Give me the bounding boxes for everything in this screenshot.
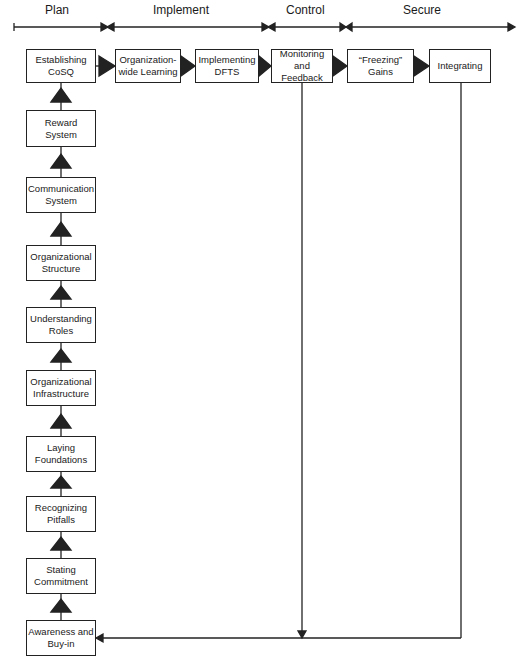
phase-secure: Secure [400,3,444,17]
box-communication-system: Communication System [26,177,96,213]
phase-plan: Plan [42,3,72,17]
box-monitoring-and-feedback: Monitoring and Feedback [271,49,333,83]
box-freezing-gains: “Freezing” Gains [347,49,414,83]
box-establishing-cosq: Establishing CoSQ [26,49,96,83]
box-understanding-roles: Understanding Roles [26,307,96,343]
box-recognizing-pitfalls: Recognizing Pitfalls [26,496,96,532]
box-integrating: Integrating [429,49,491,83]
phase-implement: Implement [150,3,212,17]
box-reward-system: Reward System [26,110,96,147]
box-implementing-dfts: Implementing DFTS [195,49,259,83]
box-stating-commitment: Stating Commitment [26,558,96,594]
box-awareness-and-buy-in: Awareness and Buy-in [26,620,96,656]
box-organization-wide-learning: Organization- wide Learning [115,49,181,83]
box-organizational-infrastructure: Organizational Infrastructure [26,370,96,406]
phase-control: Control [283,3,328,17]
box-organizational-structure: Organizational Structure [26,245,96,281]
box-laying-foundations: Laying Foundations [26,436,96,472]
